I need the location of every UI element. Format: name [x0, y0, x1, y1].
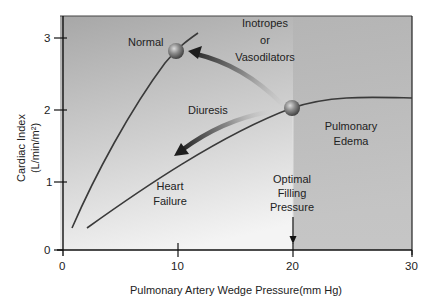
- normal-point-marker: [168, 43, 184, 59]
- optimal-filling-label-line2: Filling: [278, 187, 307, 199]
- chart: 3 2 1 0 0 10 20 30 Pulmonary Artery Wedg…: [0, 0, 430, 307]
- optimal-filling-label-line1: Optimal: [273, 173, 311, 185]
- y-tick-label-3: 3: [44, 32, 50, 44]
- x-tick-label-30: 30: [405, 260, 418, 272]
- pulmonary-edema-label-line2: Edema: [334, 135, 370, 147]
- y-axis-units: (L/min/m²): [29, 123, 41, 173]
- normal-label: Normal: [128, 36, 163, 48]
- heart-failure-label-line1: Heart: [157, 180, 184, 192]
- diuresis-label: Diuresis: [188, 104, 228, 116]
- x-axis-title: Pulmonary Artery Wedge Pressure(mm Hg): [130, 284, 342, 296]
- x-tick-label-0: 0: [59, 260, 65, 272]
- pulmonary-edema-region: [293, 16, 412, 250]
- inotropes-label-line2: or: [260, 34, 270, 46]
- y-tick-label-0: 0: [44, 244, 50, 256]
- inotropes-label-line3: Vasodilators: [235, 51, 295, 63]
- heart-failure-label-line2: Failure: [153, 195, 187, 207]
- optimal-filling-label-line3: Pressure: [270, 201, 314, 213]
- y-tick-label-1: 1: [46, 176, 52, 188]
- x-tick-label-10: 10: [171, 260, 184, 272]
- y-tick-label-2: 2: [44, 104, 50, 116]
- heart-failure-point-marker: [284, 100, 300, 116]
- inotropes-label-line1: Inotropes: [242, 17, 288, 29]
- x-tick-label-20: 20: [286, 260, 299, 272]
- y-axis-title: Cardiac Index: [15, 114, 27, 182]
- pulmonary-edema-label-line1: Pulmonary: [325, 120, 378, 132]
